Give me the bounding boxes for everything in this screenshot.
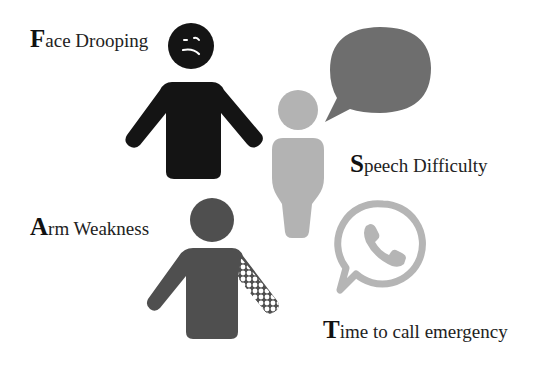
- label-text: ime to call emergency: [340, 321, 508, 342]
- phone-handset-icon: [364, 224, 406, 267]
- head-icon: [168, 23, 214, 69]
- label-time-to-call: Time to call emergency: [323, 317, 508, 342]
- fast-stroke-infographic: Face Drooping Speech Difficulty Arm Weak…: [0, 0, 551, 368]
- label-text: ace Drooping: [45, 30, 148, 51]
- person-icon: [272, 90, 324, 238]
- label-speech-difficulty: Speech Difficulty: [350, 151, 488, 176]
- weak-arm-pattern: [238, 258, 279, 314]
- label-text: rm Weakness: [48, 218, 149, 239]
- body-icon: [125, 82, 263, 179]
- head-icon: [190, 198, 234, 242]
- label-initial: F: [30, 25, 45, 52]
- weak-arm-person-icon: [147, 198, 279, 339]
- label-initial: T: [323, 316, 340, 343]
- label-text: peech Difficulty: [364, 155, 488, 176]
- phone-chat-icon: [338, 204, 423, 290]
- label-face-drooping: Face Drooping: [30, 26, 148, 51]
- illustration-layer: [0, 0, 551, 368]
- label-initial: S: [350, 150, 364, 177]
- speech-bubble-icon: [325, 27, 431, 122]
- label-arm-weakness: Arm Weakness: [30, 214, 149, 239]
- label-initial: A: [30, 213, 48, 240]
